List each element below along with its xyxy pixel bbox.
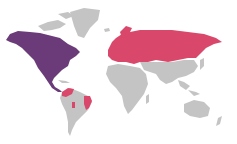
region-iceland[interactable] xyxy=(104,28,110,32)
region-southeast-asia[interactable] xyxy=(178,80,200,96)
region-asia-south[interactable] xyxy=(140,60,198,84)
region-japan[interactable] xyxy=(200,58,204,70)
region-australia[interactable] xyxy=(184,100,210,118)
world-map xyxy=(0,0,237,144)
region-new-zealand[interactable] xyxy=(216,116,222,126)
region-madagascar[interactable] xyxy=(146,94,149,104)
region-africa[interactable] xyxy=(106,64,148,114)
region-arctic-islands[interactable] xyxy=(38,12,74,31)
region-peru-bolivia[interactable] xyxy=(72,102,75,108)
region-greenland[interactable] xyxy=(70,8,100,38)
region-caribbean[interactable] xyxy=(58,80,70,83)
